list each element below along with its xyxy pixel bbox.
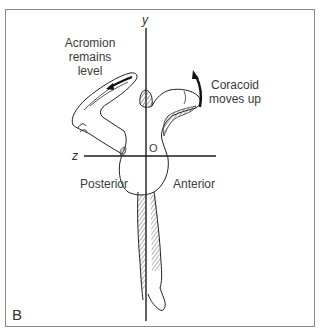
z-axis-label: z [72,149,78,163]
coracoid-annotation: Coracoid moves up [203,78,267,106]
anterior-label: Anterior [173,177,215,191]
coracoid-line-2: moves up [203,92,267,106]
panel-label: B [12,308,22,322]
posterior-label: Posterior [80,177,128,191]
coracoid-arrow-icon [196,76,201,107]
coracoid-line-1: Coracoid [203,78,267,92]
acromion-line-1: Acromion [58,36,122,50]
acromion-line-3: level [58,64,122,78]
origin-label: O [149,141,158,155]
scapula-diagram [0,0,322,334]
acromion-line-2: remains [58,50,122,64]
acromion-annotation: Acromion remains level [58,36,122,78]
scapular-spine-shape [140,90,152,107]
y-axis-label: y [142,13,148,27]
acromion-shape [72,73,137,154]
